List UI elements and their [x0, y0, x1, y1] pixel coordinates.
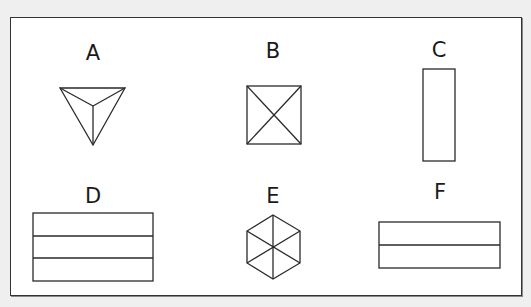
figure-d: D: [33, 184, 153, 281]
figure-c: C: [423, 38, 455, 161]
figure-b: B: [247, 39, 301, 144]
tall-rectangle-shape: [423, 69, 455, 161]
label-d: D: [85, 184, 101, 208]
triangle-pyramid-shape: [60, 88, 125, 145]
shapes-diagram: A B C D E: [0, 0, 531, 307]
label-b: B: [266, 39, 280, 63]
label-c: C: [432, 38, 447, 62]
figure-e: E: [247, 184, 300, 279]
label-f: F: [434, 180, 446, 204]
square-with-diagonals-shape: [247, 86, 301, 144]
label-a: A: [86, 41, 101, 65]
figure-f: F: [379, 180, 500, 268]
hexagon-with-spokes-shape: [247, 215, 300, 279]
rectangle-three-bands-shape: [33, 213, 153, 281]
figure-a: A: [60, 41, 125, 145]
label-e: E: [266, 184, 279, 208]
rectangle-two-bands-shape: [379, 222, 500, 268]
